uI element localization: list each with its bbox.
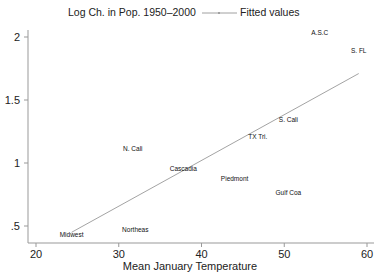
scatter-chart: Log Ch. in Pop. 1950–2000Fitted values .… [0,0,384,275]
fitted-values-line [72,74,359,233]
point-label: S. FL [351,47,367,54]
y-tick-label: 1.5 [5,94,20,106]
x-tick-label: 60 [361,248,373,260]
x-tick-label: 20 [30,248,42,260]
x-tick-label: 30 [113,248,125,260]
y-tick-label: .5 [11,220,20,232]
point-label: N. Cali [123,145,143,152]
y-tick-label: 1 [14,157,20,169]
fitted-line [72,74,359,233]
point-label: Northeas [122,226,149,233]
point-label: Midwest [60,231,84,238]
point-label: A.S.C [311,29,328,36]
point-label: S. Cali [279,116,298,123]
legend-entry-scatter: Log Ch. in Pop. 1950–2000 [68,6,196,18]
y-tick-label: 2 [14,31,20,43]
point-label: Gulf Coa [276,189,302,196]
point-label: TX Tri. [248,133,267,140]
x-tick-label: 50 [278,248,290,260]
x-tick-label: 40 [195,248,207,260]
point-labels: MidwestNortheasN. CaliCascadiaPiedmontTX… [60,29,367,238]
legend: Log Ch. in Pop. 1950–2000Fitted values [68,6,300,18]
x-axis-title: Mean January Temperature [123,260,257,272]
legend-entry-fitted: Fitted values [240,6,300,18]
point-label: Piedmont [221,175,249,182]
legend-marker [218,12,220,14]
point-label: Cascadia [170,165,197,172]
